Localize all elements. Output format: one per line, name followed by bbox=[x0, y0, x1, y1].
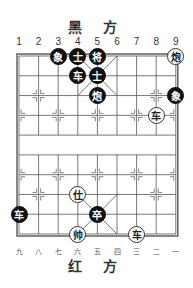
red-piece[interactable]: 车 bbox=[148, 107, 165, 124]
red-piece[interactable]: 帅 bbox=[69, 226, 86, 243]
black-piece[interactable]: 象 bbox=[50, 48, 67, 65]
black-piece[interactable]: 士 bbox=[69, 48, 86, 65]
black-piece[interactable]: 将 bbox=[89, 48, 106, 65]
red-piece[interactable]: 炮 bbox=[167, 48, 184, 65]
black-piece[interactable]: 炮 bbox=[89, 87, 106, 104]
xiangqi-board[interactable] bbox=[0, 0, 193, 288]
red-piece[interactable]: 车 bbox=[128, 226, 145, 243]
red-side-label: 红 方 bbox=[0, 255, 193, 275]
black-piece[interactable]: 卒 bbox=[89, 206, 106, 223]
black-piece[interactable]: 车 bbox=[11, 206, 28, 223]
